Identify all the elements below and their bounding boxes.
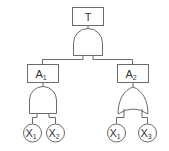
- intermediate-event-a1: A1: [28, 65, 59, 83]
- connector: [33, 114, 38, 125]
- basic-event-x2: X2: [47, 124, 65, 142]
- connector: [43, 56, 84, 65]
- a1-subscript: 1: [43, 74, 47, 81]
- basic-event-x1-left: X1: [24, 124, 42, 142]
- connector: [49, 114, 56, 125]
- basic-event-x1-right: X1: [108, 124, 126, 142]
- intermediate-event-a2: A2: [118, 65, 149, 83]
- top-event-label: T: [85, 11, 92, 23]
- a2-or-gate-icon: [118, 87, 148, 114]
- top-and-gate-icon: [74, 29, 103, 56]
- a2-subscript: 2: [133, 74, 137, 81]
- top-event-t: T: [73, 8, 104, 26]
- connector: [93, 56, 133, 65]
- fault-tree-diagram: T A1 A2 X1 X2 X1 X3: [0, 0, 169, 151]
- basic-event-x3: X3: [139, 124, 157, 142]
- a1-and-gate-icon: [30, 87, 57, 114]
